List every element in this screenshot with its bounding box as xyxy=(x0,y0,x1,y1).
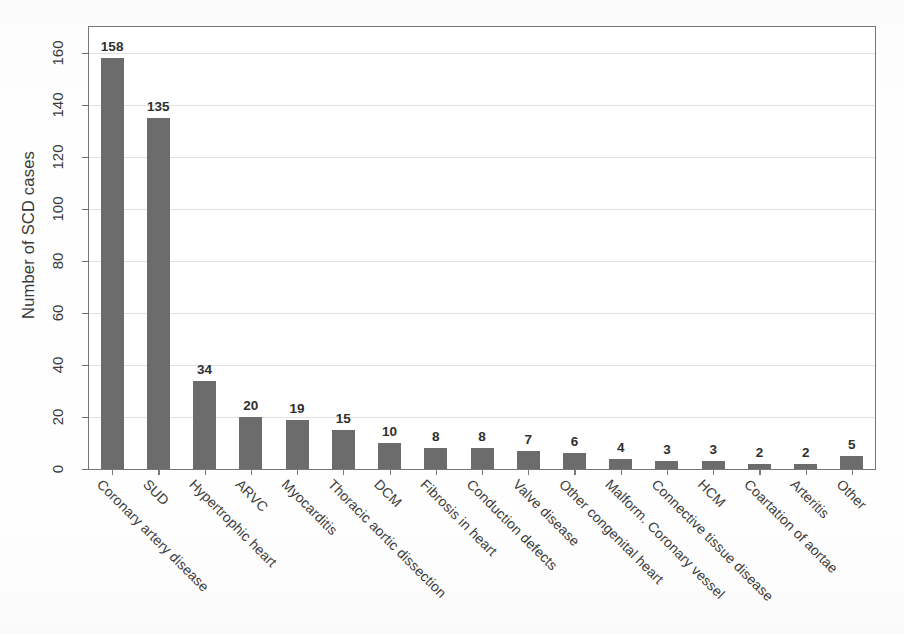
bar[interactable] xyxy=(840,456,863,469)
bar[interactable] xyxy=(147,118,170,469)
x-axis-label: Other xyxy=(834,476,870,512)
x-axis-label: DCM xyxy=(371,476,405,510)
bar-value-label: 20 xyxy=(225,398,277,413)
bar[interactable] xyxy=(609,459,632,469)
bar-value-label: 3 xyxy=(687,442,739,457)
bar[interactable] xyxy=(702,461,725,469)
bar[interactable] xyxy=(517,451,540,469)
bar[interactable] xyxy=(101,58,124,469)
y-axis-tick xyxy=(82,209,89,210)
bar-value-label: 135 xyxy=(132,99,184,114)
bar-value-label: 3 xyxy=(641,442,693,457)
y-axis-tick xyxy=(82,261,89,262)
y-axis-title: Number of SCD cases xyxy=(8,0,48,470)
bar-chart-figure: Number of SCD cases 02040608010012014016… xyxy=(0,0,904,634)
y-axis-tick xyxy=(82,313,89,314)
y-axis-tick-label: 0 xyxy=(49,449,65,489)
y-axis-tick-label: 140 xyxy=(49,85,65,125)
bar-value-label: 7 xyxy=(502,432,554,447)
y-axis-tick-label: 160 xyxy=(49,33,65,73)
y-axis-tick-label: 60 xyxy=(49,293,65,333)
x-axis-label: Arteritis xyxy=(787,476,833,522)
bar-value-label: 34 xyxy=(179,362,231,377)
x-axis-label: HCM xyxy=(695,476,729,510)
bar-value-label: 4 xyxy=(595,440,647,455)
bar-value-label: 158 xyxy=(86,39,138,54)
bar[interactable] xyxy=(563,453,586,469)
bars-group: 15813534201915108876433225 xyxy=(89,27,875,469)
plot-area: 020406080100120140160 158135342019151088… xyxy=(88,26,876,470)
bar[interactable] xyxy=(332,430,355,469)
y-axis-tick-label: 40 xyxy=(49,345,65,385)
bar-value-label: 10 xyxy=(364,424,416,439)
y-axis-tick-label: 120 xyxy=(49,137,65,177)
bar[interactable] xyxy=(378,443,401,469)
y-axis-tick-label: 100 xyxy=(49,189,65,229)
y-axis-tick xyxy=(82,417,89,418)
x-axis-label: Hypertrophic heart xyxy=(186,476,280,570)
bar-value-label: 15 xyxy=(317,411,369,426)
bar-value-label: 2 xyxy=(780,445,832,460)
bar-value-label: 8 xyxy=(410,429,462,444)
bar-value-label: 5 xyxy=(826,437,878,452)
x-axis-label: ARVC xyxy=(233,476,272,515)
bar-value-label: 8 xyxy=(456,429,508,444)
y-axis-tick xyxy=(82,105,89,106)
y-axis-tick xyxy=(82,365,89,366)
bar[interactable] xyxy=(471,448,494,469)
bar[interactable] xyxy=(424,448,447,469)
bar[interactable] xyxy=(193,381,216,469)
bar[interactable] xyxy=(239,417,262,469)
y-axis-tick xyxy=(82,157,89,158)
bar-value-label: 2 xyxy=(733,445,785,460)
bar-value-label: 19 xyxy=(271,401,323,416)
bar[interactable] xyxy=(286,420,309,469)
y-axis-tick-label: 80 xyxy=(49,241,65,281)
x-axis-label: SUD xyxy=(140,476,172,508)
bar[interactable] xyxy=(655,461,678,469)
bar-value-label: 6 xyxy=(548,434,600,449)
y-axis-tick-label: 20 xyxy=(49,397,65,437)
x-axis-labels: Coronary artery diseaseSUDHypertrophic h… xyxy=(88,470,876,634)
